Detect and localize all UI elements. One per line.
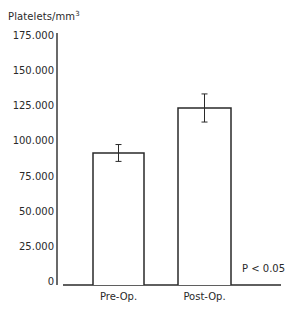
y-tick-label: 150.000 <box>2 65 54 76</box>
y-tick-label: 0 <box>2 276 54 287</box>
y-tick-label: 175.000 <box>2 30 54 41</box>
y-tick-label: 100.000 <box>2 135 54 146</box>
x-category-label: Post-Op. <box>170 291 240 302</box>
x-category-label: Pre-Op. <box>84 291 154 302</box>
bar-pre-op <box>93 153 144 285</box>
y-tick-label: 125.000 <box>2 100 54 111</box>
y-tick-label: 25.000 <box>2 241 54 252</box>
y-tick-label: 75.000 <box>2 171 54 182</box>
p-value-annotation: P < 0.05 <box>242 263 285 274</box>
y-tick-label: 50.000 <box>2 206 54 217</box>
bar-post-op <box>178 108 231 285</box>
bar-chart: Platelets/mm3 025.00050.00075.000100.000… <box>0 0 293 311</box>
